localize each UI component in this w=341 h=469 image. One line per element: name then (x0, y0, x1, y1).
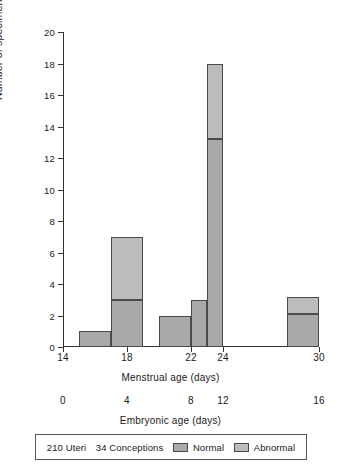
embryonic-age-tick-label: 16 (313, 395, 325, 406)
y-axis-tick (58, 32, 63, 33)
y-axis-tick-label: 14 (44, 121, 55, 132)
embryonic-age-tick-labels: 0481216 (63, 395, 319, 407)
bar-segment-normal (287, 314, 319, 347)
y-axis-tick-label: 16 (44, 90, 55, 101)
menstrual-age-tick-label: 14 (57, 352, 69, 363)
bar (111, 237, 143, 347)
menstrual-age-tick-label: 22 (185, 352, 197, 363)
legend-entry-normal: Normal (173, 442, 224, 453)
bar-segment-normal (207, 139, 223, 347)
bar-segment-normal (79, 331, 111, 347)
chart-legend: 210 Uteri 34 Conceptions Normal Abnormal (35, 434, 307, 460)
bar (79, 331, 111, 347)
y-axis-tick (58, 64, 63, 65)
legend-swatch-abnormal-icon (234, 443, 249, 452)
embryonic-age-axis-title: Embryonic age (days) (0, 415, 341, 426)
y-axis-tick-label: 6 (50, 247, 55, 258)
y-axis-line (63, 32, 64, 347)
bar-segment-normal (191, 300, 207, 347)
bar (287, 297, 319, 347)
y-axis-tick-label: 20 (44, 27, 55, 38)
bar-segment-abnormal (207, 64, 223, 140)
y-axis-tick-label: 4 (50, 279, 55, 290)
y-axis-tick (58, 127, 63, 128)
bar (159, 316, 191, 348)
y-axis-tick-label: 12 (44, 153, 55, 164)
y-axis-tick-label: 18 (44, 58, 55, 69)
menstrual-age-tick-label: 18 (121, 352, 133, 363)
plot-area: 02468101214161820 (63, 32, 319, 347)
bar-segment-abnormal (111, 237, 143, 300)
embryonic-age-tick-label: 12 (217, 395, 229, 406)
y-axis-tick-label: 0 (50, 342, 55, 353)
legend-swatch-normal-icon (173, 443, 188, 452)
menstrual-age-axis-title: Menstrual age (days) (0, 372, 341, 383)
legend-uteri-count: 210 Uteri (47, 442, 86, 453)
bar-segment-normal (111, 300, 143, 347)
embryonic-age-tick-label: 4 (124, 395, 130, 406)
y-axis-tick (58, 284, 63, 285)
bar-segment-normal (159, 316, 191, 348)
bar (191, 300, 207, 347)
chart-figure: 02468101214161820 Number of specimens re… (0, 0, 341, 469)
menstrual-age-tick-label: 24 (217, 352, 229, 363)
y-axis-tick (58, 190, 63, 191)
y-axis-tick (58, 95, 63, 96)
y-axis-tick-label: 10 (44, 184, 55, 195)
menstrual-age-tick-labels: 1418222430 (63, 352, 319, 364)
legend-label-normal: Normal (193, 442, 224, 453)
menstrual-age-tick-label: 30 (313, 352, 325, 363)
legend-label-abnormal: Abnormal (254, 442, 295, 453)
embryonic-age-tick-label: 8 (188, 395, 194, 406)
bar-segment-abnormal (287, 297, 319, 314)
embryonic-age-tick-label: 0 (60, 395, 66, 406)
y-axis-tick-label: 8 (50, 216, 55, 227)
y-axis-tick-label: 2 (50, 310, 55, 321)
y-axis-tick (58, 221, 63, 222)
legend-entry-abnormal: Abnormal (234, 442, 295, 453)
legend-conceptions-count: 34 Conceptions (96, 442, 163, 453)
bar (207, 64, 223, 348)
y-axis-tick (58, 253, 63, 254)
y-axis-title: Number of specimens recovered (0, 0, 4, 100)
y-axis-tick (58, 316, 63, 317)
y-axis-tick (58, 158, 63, 159)
